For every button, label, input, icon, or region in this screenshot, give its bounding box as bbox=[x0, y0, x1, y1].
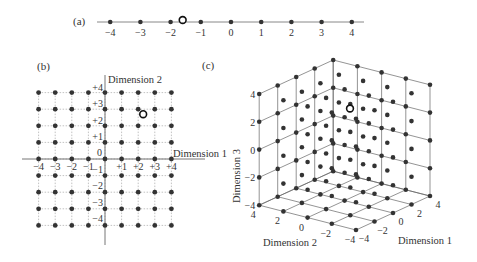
grid-point bbox=[281, 126, 286, 131]
open-point-marker bbox=[179, 17, 186, 24]
grid-point bbox=[275, 83, 280, 88]
grid-point bbox=[385, 113, 390, 118]
grid-point bbox=[428, 138, 433, 143]
grid-point bbox=[69, 140, 74, 145]
grid-point bbox=[312, 177, 317, 182]
tick-label: 4 bbox=[349, 27, 354, 38]
x-tick-label: +4 bbox=[166, 161, 177, 172]
grid-point bbox=[36, 190, 41, 195]
grid-point bbox=[404, 104, 409, 109]
grid-point bbox=[318, 81, 323, 86]
grid-point bbox=[330, 222, 335, 227]
grid-point bbox=[294, 75, 299, 80]
grid-point bbox=[69, 90, 74, 95]
tick-label: −1 bbox=[195, 27, 206, 38]
grid-point bbox=[275, 167, 280, 172]
grid-point bbox=[53, 107, 58, 112]
grid-point bbox=[169, 90, 174, 95]
grid-point bbox=[312, 66, 317, 71]
grid-point bbox=[391, 127, 396, 132]
grid-point bbox=[391, 211, 396, 216]
grid-point bbox=[103, 90, 108, 95]
grid-point bbox=[428, 194, 433, 199]
grid-point bbox=[169, 190, 174, 195]
grid-point bbox=[103, 173, 108, 178]
grid-point bbox=[385, 85, 390, 90]
grid-point bbox=[385, 196, 390, 201]
grid-point bbox=[119, 123, 124, 128]
grid-point bbox=[337, 72, 342, 77]
grid-point bbox=[324, 96, 329, 101]
grid-point bbox=[361, 162, 366, 167]
grid-point bbox=[69, 223, 74, 228]
grid-point bbox=[86, 223, 91, 228]
grid-point bbox=[152, 140, 157, 145]
grid-point bbox=[36, 206, 41, 211]
grid-point bbox=[348, 213, 353, 218]
grid-point bbox=[367, 121, 372, 126]
grid-point bbox=[348, 130, 353, 135]
grid-point bbox=[324, 179, 329, 184]
grid-point bbox=[300, 117, 305, 122]
grid-point bbox=[119, 223, 124, 228]
number-line-point bbox=[168, 20, 173, 25]
3d-axis-tick-labels: 420−2−4420−2−4−4−2024 bbox=[245, 89, 441, 245]
grid-point bbox=[361, 190, 366, 195]
grid-point bbox=[53, 206, 58, 211]
grid-point bbox=[300, 89, 305, 94]
grid-point bbox=[409, 147, 414, 152]
grid-point bbox=[152, 157, 157, 162]
grid-point bbox=[404, 76, 409, 81]
number-line-point bbox=[138, 20, 143, 25]
grid-point bbox=[409, 119, 414, 124]
grid-point bbox=[275, 111, 280, 116]
tick-label: 3 bbox=[319, 27, 324, 38]
grid-point bbox=[354, 172, 359, 177]
grid-point bbox=[86, 107, 91, 112]
tick-label: 1 bbox=[259, 27, 264, 38]
grid-point bbox=[119, 140, 124, 145]
grid-point bbox=[103, 157, 108, 162]
dimension-1-tick: −4 bbox=[359, 233, 370, 244]
grid-point bbox=[348, 185, 353, 190]
grid-point bbox=[136, 123, 141, 128]
grid-point bbox=[428, 166, 433, 171]
grid-point bbox=[275, 139, 280, 144]
grid-point bbox=[36, 173, 41, 178]
grid-point bbox=[372, 136, 377, 141]
y-tick-label: +3 bbox=[92, 98, 103, 109]
grid-point bbox=[86, 123, 91, 128]
grid-points bbox=[36, 90, 174, 228]
dimension-2-tick: 2 bbox=[275, 215, 280, 226]
dimension-2-tick: −4 bbox=[345, 234, 356, 245]
grid-point bbox=[275, 194, 280, 199]
tick-label: −3 bbox=[135, 27, 146, 38]
grid-point bbox=[385, 140, 390, 145]
grid-point bbox=[391, 100, 396, 105]
grid-point bbox=[367, 177, 372, 182]
grid-point bbox=[69, 107, 74, 112]
grid-point bbox=[281, 181, 286, 186]
grid-point bbox=[409, 91, 414, 96]
panel-b-2d-grid: (b) Dimension 2 Dimension 1 −4−3−2−1+1+2… bbox=[22, 60, 227, 245]
grid-point bbox=[385, 168, 390, 173]
dimension-3-tick: −2 bbox=[245, 172, 256, 183]
grid-point bbox=[367, 93, 372, 98]
grid-point bbox=[136, 190, 141, 195]
grid-point bbox=[53, 173, 58, 178]
grid-point bbox=[348, 157, 353, 162]
grid-point bbox=[342, 115, 347, 120]
x-tick-label: +2 bbox=[133, 161, 144, 172]
dimension-3-tick: 2 bbox=[250, 117, 255, 128]
grid-point bbox=[354, 228, 359, 233]
grid-point bbox=[367, 149, 372, 154]
grid-point bbox=[103, 123, 108, 128]
grid-point bbox=[103, 206, 108, 211]
grid-point bbox=[152, 223, 157, 228]
grid-point bbox=[119, 157, 124, 162]
grid-point bbox=[337, 184, 342, 189]
y-tick-label: +2 bbox=[92, 115, 103, 126]
grid-point bbox=[318, 137, 323, 142]
grid-point bbox=[36, 90, 41, 95]
grid-point bbox=[305, 104, 310, 109]
